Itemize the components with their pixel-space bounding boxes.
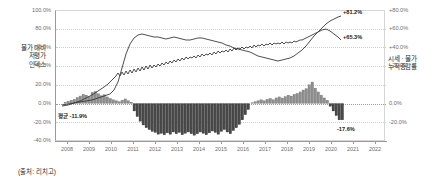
left-ytick-6: -20.0% bbox=[25, 119, 51, 126]
xtick-2009: 2009 bbox=[78, 146, 100, 153]
xtick-2020: 2020 bbox=[320, 146, 342, 153]
left-ytick-7: -40.0% bbox=[25, 137, 51, 144]
xtick-2010: 2010 bbox=[100, 146, 122, 153]
label-average: 평균 -11.9% bbox=[58, 113, 87, 120]
xtick-2015: 2015 bbox=[210, 146, 232, 153]
label-last-bar: -17.6% bbox=[337, 126, 355, 133]
plot-area bbox=[55, 10, 386, 141]
source-note: (출처: 리치고) bbox=[18, 167, 56, 176]
label-upper-line-end: +81.2% bbox=[343, 9, 362, 16]
right-ytick-3: +20.0% bbox=[389, 62, 415, 69]
xtick-2022: 2022 bbox=[364, 146, 386, 153]
left-ytick-3: 40.0% bbox=[25, 62, 51, 69]
left-ytick-1: 80.0% bbox=[25, 25, 51, 32]
chart-container: 물가 대비 저평가 인덱스 시세 · 물가 누적증감률 100.0% 80.0%… bbox=[0, 0, 439, 182]
xtick-2013: 2013 bbox=[166, 146, 188, 153]
right-ytick-5: -20.0% bbox=[389, 119, 415, 126]
left-ytick-0: 100.0% bbox=[25, 7, 51, 14]
xtick-2017: 2017 bbox=[254, 146, 276, 153]
left-ytick-2: 60.0% bbox=[25, 44, 51, 51]
xtick-2012: 2012 bbox=[144, 146, 166, 153]
xtick-2018: 2018 bbox=[276, 146, 298, 153]
xtick-2011: 2011 bbox=[122, 146, 144, 153]
xtick-2014: 2014 bbox=[188, 146, 210, 153]
right-ytick-4: 0.0% bbox=[389, 100, 415, 107]
label-lower-line-end: +65.3% bbox=[343, 34, 362, 41]
xtick-2021: 2021 bbox=[342, 146, 364, 153]
line-series-cpi-cumulative bbox=[56, 10, 386, 141]
right-ytick-2: +40.0% bbox=[389, 44, 415, 51]
left-ytick-4: 20.0% bbox=[25, 81, 51, 88]
right-ytick-0: +80.0% bbox=[389, 7, 415, 14]
xtick-2016: 2016 bbox=[232, 146, 254, 153]
left-ytick-5: 0.0% bbox=[25, 100, 51, 107]
right-ytick-1: +60.0% bbox=[389, 25, 415, 32]
xtick-2019: 2019 bbox=[298, 146, 320, 153]
xtick-2008: 2008 bbox=[56, 146, 78, 153]
